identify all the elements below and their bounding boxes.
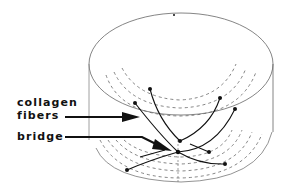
- label-fibers: fibers: [17, 110, 59, 121]
- cylinder-top-ellipse: [89, 13, 273, 115]
- fiber-endpoint-dots: [125, 14, 237, 172]
- bridge-arrow: [65, 137, 172, 151]
- label-bridge: bridge: [17, 131, 64, 142]
- label-collagen: collagen: [17, 97, 78, 108]
- collagen-fibers-arrow: [65, 112, 140, 122]
